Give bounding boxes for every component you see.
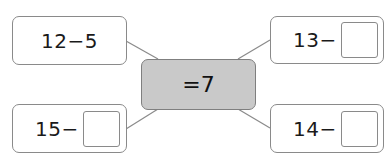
connector-top-right [238,40,270,59]
target-result-text: =7 [182,72,214,97]
connector-top-left [126,41,158,59]
expression-box-top-left: 12−5 [12,16,127,65]
answer-blank-input[interactable] [341,111,378,147]
answer-blank-input[interactable] [341,22,378,58]
connector-bottom-right [238,109,270,128]
target-result-box: =7 [141,59,256,110]
expression-text: 13− [293,28,337,52]
answer-blank-input[interactable] [83,111,120,147]
expression-text: 12−5 [41,29,98,53]
expression-text: 15− [35,117,79,141]
expression-text: 14− [293,117,337,141]
expression-box-bottom-right: 14− [270,104,384,153]
expression-box-top-right: 13− [270,16,384,64]
connector-bottom-left [126,109,158,129]
expression-box-bottom-left: 15− [12,104,127,153]
